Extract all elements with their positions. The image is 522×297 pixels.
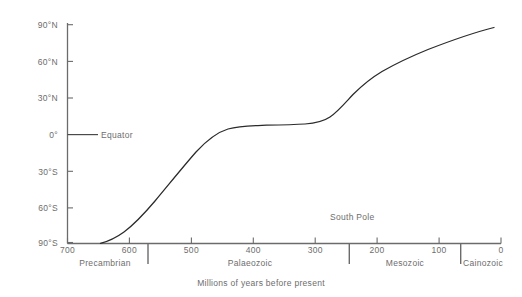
equator-annotation: Equator bbox=[101, 130, 133, 140]
y-axis-ticks bbox=[68, 25, 74, 243]
era-label-cainozoic: Cainozoic bbox=[463, 258, 519, 268]
y-tick-label-60n: 60°N bbox=[22, 57, 58, 67]
era-label-palaeozoic: Palaeozoic bbox=[208, 258, 292, 268]
y-tick-label-30s: 30°S bbox=[22, 167, 58, 177]
era-label-precambrian: Precambrian bbox=[62, 258, 148, 268]
x-axis-title: Millions of years before present bbox=[0, 278, 522, 288]
x-tick-label-200: 200 bbox=[357, 245, 397, 255]
palaeolatitude-chart-figure: 90°N 60°N 30°N 0° 30°S 60°S 90°S Equator… bbox=[0, 0, 522, 297]
y-tick-label-30n: 30°N bbox=[22, 93, 58, 103]
y-tick-label-60s: 60°S bbox=[22, 203, 58, 213]
palaeolatitude-curve bbox=[101, 28, 495, 244]
south-pole-annotation: South Pole bbox=[330, 212, 375, 222]
x-axis-ticks bbox=[68, 238, 502, 244]
x-tick-label-100: 100 bbox=[419, 245, 459, 255]
era-label-mesozoic: Mesozoic bbox=[370, 258, 440, 268]
x-tick-label-300: 300 bbox=[295, 245, 335, 255]
x-tick-label-0: 0 bbox=[481, 245, 521, 255]
x-tick-label-400: 400 bbox=[233, 245, 273, 255]
y-tick-label-90n: 90°N bbox=[22, 20, 58, 30]
x-tick-label-500: 500 bbox=[171, 245, 211, 255]
x-tick-label-700: 700 bbox=[48, 245, 88, 255]
y-tick-label-0: 0° bbox=[22, 130, 58, 140]
x-tick-label-600: 600 bbox=[109, 245, 149, 255]
